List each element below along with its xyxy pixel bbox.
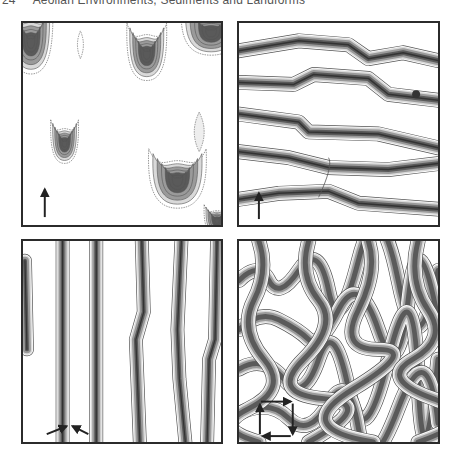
- barchan-dune: [127, 23, 167, 80]
- transverse-ridge: [239, 152, 438, 170]
- transverse-ridge: [239, 191, 438, 209]
- panel-barchan-dunes: [21, 21, 223, 227]
- transverse-ridge: [239, 114, 438, 148]
- contour-band: [239, 114, 438, 148]
- page-number: 24: [2, 0, 16, 7]
- minor-contour: [77, 31, 83, 59]
- isolated-peak: [412, 90, 420, 98]
- panel-transverse-dunes: [237, 21, 440, 227]
- barchan-dune: [23, 23, 53, 74]
- linear-ridge: [136, 241, 144, 442]
- linear-contour-plot: [23, 241, 221, 442]
- barchan-dune: [204, 205, 221, 225]
- barchan-dune: [148, 149, 206, 208]
- panel-network-dunes: [237, 239, 440, 444]
- transverse-ridge: [239, 74, 438, 100]
- transverse-contour-plot: [239, 23, 438, 225]
- barchan-contour-plot: [23, 23, 221, 225]
- barchan-dune: [181, 23, 221, 55]
- transverse-ridge: [239, 41, 438, 61]
- linear-ridge: [177, 241, 185, 442]
- linear-ridge: [25, 261, 27, 350]
- running-title: Aeolian Environments, Sediments and Land…: [33, 0, 305, 7]
- contour-level: [215, 218, 220, 223]
- running-header: 24 Aeolian Environments, Sediments and L…: [2, 0, 305, 7]
- wind-arrow-up-left-icon: [73, 426, 89, 434]
- panel-linear-dunes: [21, 239, 223, 444]
- linear-ridge: [207, 241, 217, 442]
- network-contour-plot: [239, 241, 438, 442]
- minor-contour: [194, 112, 204, 152]
- barchan-dune: [51, 120, 79, 164]
